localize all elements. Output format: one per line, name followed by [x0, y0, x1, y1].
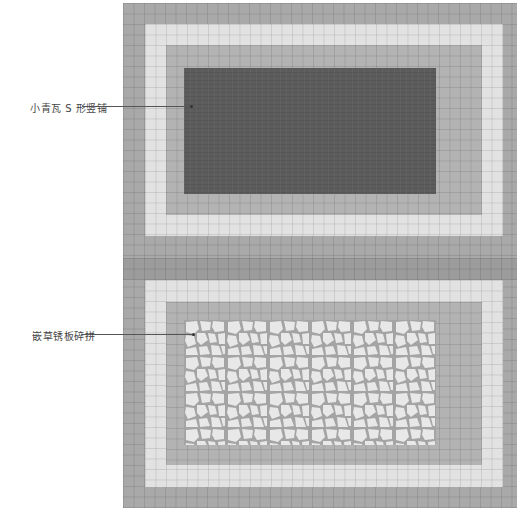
leader-line-1 [82, 106, 192, 107]
crazy-paving-pattern [184, 320, 436, 445]
leader-dot-1 [190, 105, 193, 108]
leader-line-2 [81, 334, 194, 335]
divider-band [123, 258, 517, 280]
label-crazy-paving: 嵌草锈板碎拼 [32, 328, 95, 343]
label-slate-s-pattern: 小青瓦 S 形竖铺 [30, 100, 107, 115]
crazy-paving-field [184, 320, 436, 445]
slate-s-pattern-field [184, 68, 436, 194]
leader-dot-2 [192, 333, 195, 336]
paving-plan [123, 3, 517, 508]
